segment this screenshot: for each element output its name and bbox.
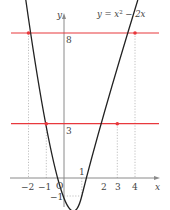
- x-tick-2: 2: [101, 182, 107, 192]
- origin-label: O: [56, 181, 63, 191]
- y-axis-label: y: [56, 10, 63, 20]
- point-neg1-3: [45, 122, 49, 126]
- x-axis-arrow-icon: [154, 176, 160, 180]
- x-tick-3: 3: [115, 182, 121, 192]
- y-tick-8: 8: [66, 35, 72, 45]
- parabola-graph: y x O y = x2 − 2x 8 3 −1 −2 −1 1 2 3 4: [0, 0, 170, 210]
- point-4-8: [133, 31, 137, 35]
- point-neg2-8: [27, 31, 31, 35]
- y-tick-neg1: −1: [50, 192, 63, 202]
- x-tick-neg2: −2: [21, 182, 34, 192]
- function-label: y = x2 − 2x: [96, 9, 146, 19]
- x-tick-4: 4: [132, 182, 138, 192]
- point-3-3: [116, 122, 120, 126]
- y-tick-3: 3: [66, 126, 72, 136]
- x-tick-neg1: −1: [38, 182, 51, 192]
- x-axis-label: x: [155, 182, 160, 192]
- x-tick-1: 1: [79, 167, 85, 177]
- y-axis-arrow-icon: [62, 13, 66, 19]
